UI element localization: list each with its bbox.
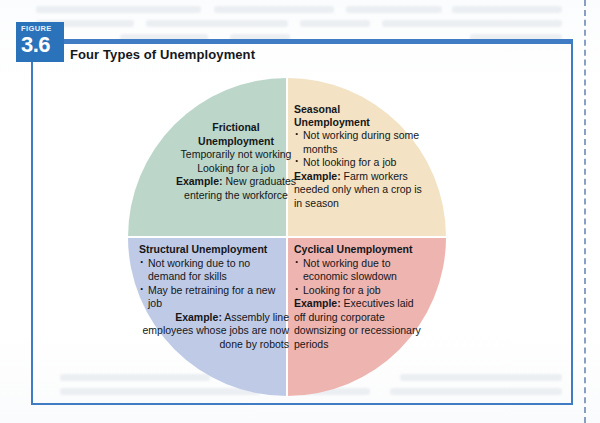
cyclical-bullet-1: Not working due to economic slowdown [294, 257, 424, 284]
seasonal-example: Example: Farm workers needed only when a… [294, 170, 422, 211]
figure-title: Four Types of Unemployment [70, 47, 255, 62]
structural-bullet-2: May be retraining for a new job [139, 284, 289, 311]
cyclical-example: Example: Executives laid off during corp… [294, 297, 424, 351]
panel-structural-unemployment: Structural Unemployment Not working due … [139, 243, 289, 351]
quadrant-divider-horizontal [128, 236, 446, 238]
frictional-heading-line1: Frictional [172, 120, 300, 134]
cyclical-example-label: Example: [294, 297, 341, 309]
structural-example: Example: Assembly line employees whose j… [139, 311, 289, 352]
frictional-bullet-2: Looking for a job [172, 162, 300, 176]
frictional-example: Example: New graduates entering the work… [172, 175, 300, 202]
figure-badge-number: 3.6 [21, 33, 64, 57]
frictional-heading-line2: Unemployment [172, 134, 300, 148]
seasonal-bullet-2: Not looking for a job [294, 156, 422, 170]
structural-bullet-1: Not working due to no demand for skills [139, 257, 289, 284]
panel-cyclical-unemployment: Cyclical Unemployment Not working due to… [294, 243, 424, 351]
frictional-bullet-1: Temporarily not working [172, 148, 300, 162]
frictional-example-label: Example: [176, 175, 223, 187]
seasonal-heading-line1: Seasonal [294, 103, 422, 116]
panel-seasonal-unemployment: Seasonal Unemployment Not working during… [294, 103, 422, 210]
seasonal-heading-line2: Unemployment [294, 116, 422, 129]
seasonal-bullet-list: Not working during some months Not looki… [294, 129, 422, 170]
structural-heading-line1: Structural Unemployment [139, 243, 289, 257]
seasonal-bullet-1: Not working during some months [294, 129, 422, 156]
cyclical-bullet-2: Looking for a job [294, 284, 424, 298]
seasonal-example-label: Example: [294, 170, 341, 182]
page-trim-guide [584, 0, 586, 423]
structural-example-label: Example: [175, 311, 222, 323]
structural-bullet-list: Not working due to no demand for skills … [139, 257, 289, 311]
figure-number-badge: FIGURE 3.6 [16, 22, 64, 62]
frictional-bullet-list: Temporarily not working Looking for a jo… [172, 148, 300, 175]
cyclical-heading-line1: Cyclical Unemployment [294, 243, 424, 257]
panel-frictional-unemployment: Frictional Unemployment Temporarily not … [172, 120, 300, 202]
cyclical-bullet-list: Not working due to economic slowdown Loo… [294, 257, 424, 298]
title-rule [64, 41, 573, 44]
